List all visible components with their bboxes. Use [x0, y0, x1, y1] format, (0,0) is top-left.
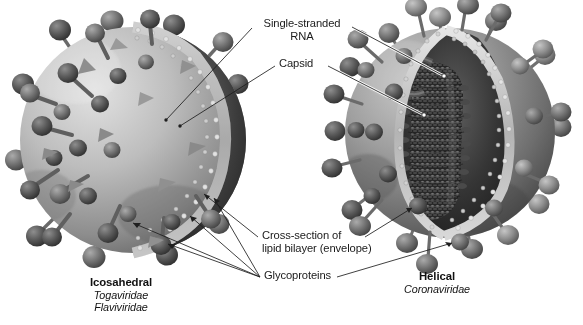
caption-helical-title: Helical	[404, 270, 470, 283]
caption-helical: Helical Coronaviridae	[404, 270, 470, 295]
label-single-stranded-rna-line1: Single-stranded	[264, 17, 341, 29]
label-cross-section-line2: lipid bilayer (envelope)	[262, 242, 372, 254]
caption-helical-family-1: Coronaviridae	[404, 283, 470, 295]
caption-icosahedral-family-1: Togaviridae	[90, 289, 152, 301]
label-glycoproteins-text: Glycoproteins	[264, 269, 331, 281]
label-single-stranded-rna-line2: RNA	[290, 30, 313, 42]
caption-icosahedral-family-2: Flaviviridae	[90, 301, 152, 313]
virus-structure-diagram: Single-stranded RNA Capsid Cross-section…	[0, 0, 583, 325]
caption-icosahedral-title: Icosahedral	[90, 276, 152, 289]
caption-icosahedral: Icosahedral Togaviridae Flaviviridae	[90, 276, 152, 314]
label-cross-section-line1: Cross-section of	[262, 229, 341, 241]
label-single-stranded-rna: Single-stranded RNA	[252, 17, 352, 42]
label-capsid: Capsid	[279, 57, 313, 70]
label-capsid-text: Capsid	[279, 57, 313, 69]
label-cross-section-lipid-bilayer: Cross-section of lipid bilayer (envelope…	[262, 229, 372, 254]
label-glycoproteins: Glycoproteins	[264, 269, 331, 282]
